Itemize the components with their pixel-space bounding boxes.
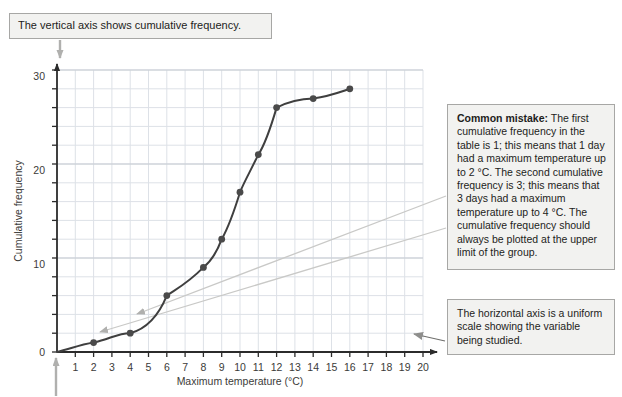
x-tick-label: 10 [234, 361, 246, 373]
x-tick-label: 16 [344, 361, 356, 373]
y-tick-label: 10 [33, 258, 45, 270]
leader-to-point-4-3 [137, 196, 446, 314]
callout-common-mistake-label: Common mistake: [457, 112, 548, 124]
callout-horizontal-axis-text: The horizontal axis is a uniform scale s… [457, 307, 602, 346]
x-tick-label: 12 [271, 361, 283, 373]
x-tick-label: 2 [91, 361, 97, 373]
data-point [127, 330, 134, 337]
data-point [200, 264, 207, 271]
x-tick-label: 18 [381, 361, 393, 373]
y-tick-label: 20 [33, 164, 45, 176]
y-axis-tick-labels: 0 10 20 30 [33, 70, 45, 358]
callout-common-mistake: Common mistake: The first cumulative fre… [447, 104, 615, 270]
x-tick-label: 6 [164, 361, 170, 373]
x-tick-label: 19 [399, 361, 411, 373]
x-tick-label: 8 [200, 361, 206, 373]
leader-to-x-axis [414, 334, 445, 341]
data-point [310, 95, 317, 102]
data-point [218, 236, 225, 243]
callout-common-mistake-body: The first cumulative frequency in the ta… [457, 112, 606, 258]
x-axis-title: Maximum temperature (°C) [177, 375, 304, 387]
callout-vertical-axis-text: The vertical axis shows cumulative frequ… [18, 19, 241, 32]
y-tick-label: 30 [33, 70, 45, 82]
cumulative-frequency-figure: 1 2 3 4 5 6 7 8 9 10 11 12 13 14 15 16 1… [0, 0, 622, 397]
x-tick-label: 1 [72, 361, 78, 373]
data-point [163, 292, 170, 299]
y-axis-title: Cumulative frequency [12, 159, 24, 261]
x-tick-label: 17 [362, 361, 374, 373]
x-tick-label: 14 [307, 361, 319, 373]
leader-to-point-2-1 [100, 228, 446, 332]
x-tick-label: 11 [253, 361, 264, 373]
data-point [346, 85, 353, 92]
x-tick-label: 5 [146, 361, 152, 373]
data-point [237, 189, 244, 196]
callout-horizontal-axis: The horizontal axis is a uniform scale s… [447, 299, 615, 355]
annotation-leaders [56, 40, 446, 396]
data-point [273, 104, 280, 111]
x-tick-label: 20 [417, 361, 429, 373]
data-point [90, 339, 97, 346]
x-tick-label: 3 [109, 361, 115, 373]
y-tick-label: 0 [39, 346, 45, 358]
grid-vertical-minor [75, 70, 423, 352]
data-point [255, 151, 262, 158]
x-axis-tick-labels: 1 2 3 4 5 6 7 8 9 10 11 12 13 14 15 16 1… [72, 361, 429, 373]
x-tick-label: 4 [127, 361, 133, 373]
x-tick-label: 7 [182, 361, 188, 373]
x-tick-label: 15 [326, 361, 338, 373]
x-tick-label: 9 [219, 361, 225, 373]
x-tick-label: 13 [289, 361, 301, 373]
callout-vertical-axis: The vertical axis shows cumulative frequ… [9, 13, 272, 39]
